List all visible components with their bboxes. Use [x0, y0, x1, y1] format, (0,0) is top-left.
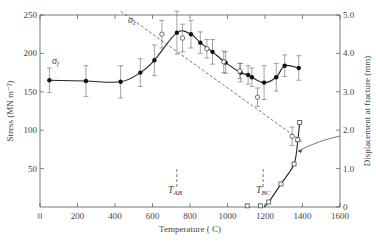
x-tick-label: 400 [108, 211, 122, 221]
y-tick-label-left: 150 [24, 87, 38, 97]
data-point-open [237, 69, 241, 73]
data-point-open [222, 60, 226, 64]
data-point-filled [262, 80, 266, 84]
y-axis-right-title: Displacement at fracture (mm) [362, 56, 372, 167]
data-point-filled [118, 80, 122, 84]
data-point-open [255, 95, 259, 99]
plot-frame [40, 15, 340, 207]
y-tick-label-left: 200 [24, 48, 38, 58]
x-tick-label: 1000 [219, 211, 238, 221]
y-tick-label-right: 4.0 [343, 48, 355, 58]
data-point-filled [84, 79, 88, 83]
data-point-open [160, 32, 164, 36]
data-point-square [298, 121, 302, 125]
data-point-filled [175, 30, 179, 34]
data-point-square [279, 182, 283, 186]
data-point-filled [189, 32, 193, 36]
y-tick-label-right: 3.0 [343, 87, 355, 97]
data-point-open [205, 47, 209, 51]
x-tick-label: 1200 [256, 211, 275, 221]
data-point-filled [138, 70, 142, 74]
x-tick-label: 1400 [294, 211, 313, 221]
data-point-filled [152, 58, 156, 62]
sigma-f-curve [49, 31, 298, 83]
data-point-filled [274, 75, 278, 79]
t-ab-label: TAB [168, 184, 183, 197]
data-point-square [296, 138, 300, 142]
y-tick-label-right: 2.0 [343, 125, 355, 135]
data-point-open [180, 36, 184, 40]
series-2 [245, 121, 302, 208]
data-point-filled [210, 50, 214, 54]
y-tick-label-right: 0 [343, 202, 348, 212]
y-tick-label-left: 100 [24, 125, 38, 135]
annotations: σf σc TAB TBC Temperature ( C) Stress (M… [5, 14, 372, 234]
data-point-filled [246, 73, 250, 77]
x-tick-label: 600 [146, 211, 160, 221]
data-point-filled [198, 40, 202, 44]
x-tick-label: 800 [183, 211, 197, 221]
x-tick-label: 0 [38, 211, 43, 221]
data-point-filled [250, 75, 254, 79]
arrow-to-displacement [298, 136, 340, 151]
data-point-square [267, 200, 271, 204]
data-point-filled [282, 63, 286, 67]
data-point-square [292, 162, 296, 166]
y-tick-label-left: 250 [24, 10, 38, 20]
data-point-filled [47, 78, 51, 82]
series-layer [47, 11, 340, 208]
chart: 0200400600800100012001400160050100150200… [0, 0, 376, 243]
series-0 [47, 11, 301, 99]
sigma-c-label: σc [128, 14, 137, 27]
x-tick-label: 1600 [331, 211, 350, 221]
y-tick-label-left: 50 [28, 164, 38, 174]
sigma-f-label: σf [52, 55, 60, 68]
x-axis-title: Temperature ( C) [159, 224, 221, 234]
axes: 0200400600800100012001400160050100150200… [24, 10, 355, 221]
x-tick-label: 200 [71, 211, 85, 221]
data-point-square [258, 204, 262, 208]
y-axis-left-title: Stress (MN m⁻²) [5, 81, 15, 142]
data-point-filled [297, 66, 301, 70]
chart-canvas: 0200400600800100012001400160050100150200… [0, 0, 376, 243]
data-point-square [245, 204, 249, 208]
y-tick-label-right: 5.0 [343, 10, 355, 20]
data-point-open [290, 134, 294, 138]
y-tick-label-right: 1.0 [343, 164, 355, 174]
